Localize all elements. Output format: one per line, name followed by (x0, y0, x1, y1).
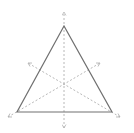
left-diagonal-axis (28, 63, 120, 117)
right-diagonal-axis (8, 63, 100, 117)
triangle-symmetry-diagram (0, 0, 134, 133)
